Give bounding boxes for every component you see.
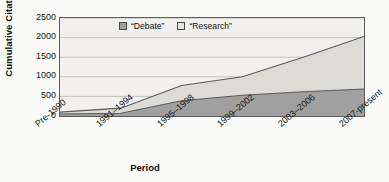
x-axis-tick-0: Pre-1990 bbox=[33, 97, 68, 128]
legend-swatch-icon bbox=[177, 22, 185, 30]
x-axis-tick-1: 1991–1994 bbox=[94, 92, 135, 129]
x-axis-tick-5: 2007-present bbox=[337, 87, 384, 129]
legend-label: “Debate” bbox=[131, 21, 164, 31]
x-axis-tick-4: 2003–2006 bbox=[276, 92, 317, 129]
x-axis-title: Period bbox=[0, 162, 290, 173]
legend-item-debate: “Debate” bbox=[119, 21, 164, 31]
legend-item-research: “Research” bbox=[177, 21, 232, 31]
x-axis-tick-3: 1999–2002 bbox=[215, 92, 256, 129]
legend-swatch-icon bbox=[119, 22, 127, 30]
chart-legend: “Debate”“Research” bbox=[115, 20, 236, 32]
chart-figure: Cumulative Citations 0500100015002000250… bbox=[0, 0, 389, 182]
legend-label: “Research” bbox=[189, 21, 232, 31]
x-axis-tick-2: 1995–1998 bbox=[155, 92, 196, 129]
